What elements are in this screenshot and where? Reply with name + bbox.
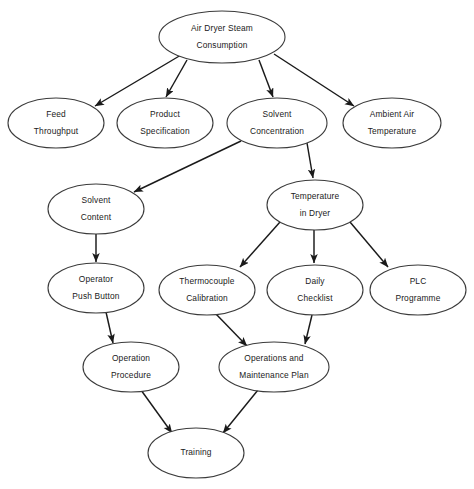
- node-label-ambient-air-temperature-line2: Temperature: [368, 126, 417, 136]
- node-label-feed-throughput-line1: Feed: [46, 109, 66, 119]
- edge-ops-plan-to-training: [223, 390, 258, 433]
- edge-steam-to-product: [166, 60, 187, 97]
- node-label-air-dryer-steam-consumption-line2: Consumption: [197, 40, 248, 50]
- edge-solvent-conc-to-solvent-content: [134, 141, 241, 192]
- node-shape-temperature-in-dryer: [267, 180, 363, 230]
- nodes-layer: Air Dryer SteamConsumptionFeedThroughput…: [8, 11, 466, 478]
- edge-daily-checklist-to-ops-plan: [305, 315, 312, 344]
- node-shape-air-dryer-steam-consumption: [159, 11, 285, 63]
- node-ambient-air-temperature[interactable]: Ambient AirTemperature: [343, 98, 441, 148]
- node-operations-and-maintenance-plan[interactable]: Operations andMaintenance Plan: [219, 342, 329, 392]
- node-label-feed-throughput-line2: Throughput: [34, 126, 79, 136]
- node-shape-product-specification: [117, 98, 213, 148]
- node-air-dryer-steam-consumption[interactable]: Air Dryer SteamConsumption: [159, 11, 285, 63]
- node-label-training-line1: Training: [180, 447, 211, 457]
- flow-diagram-svg: Air Dryer SteamConsumptionFeedThroughput…: [0, 0, 474, 489]
- edge-operation-procedure-to-training: [141, 390, 172, 433]
- node-operator-push-button[interactable]: OperatorPush Button: [48, 263, 144, 313]
- node-label-air-dryer-steam-consumption-line1: Air Dryer Steam: [191, 23, 253, 33]
- node-label-temperature-in-dryer-line1: Temperature: [291, 191, 340, 201]
- edge-steam-to-solvent-conc: [259, 60, 273, 97]
- node-plc-programme[interactable]: PLCProgramme: [370, 265, 466, 315]
- node-label-operations-and-maintenance-plan-line1: Operations and: [244, 353, 304, 363]
- node-label-operator-push-button-line1: Operator: [79, 274, 113, 284]
- node-temperature-in-dryer[interactable]: Temperaturein Dryer: [267, 180, 363, 230]
- node-label-daily-checklist-line2: Checklist: [297, 293, 333, 303]
- edge-temp-dryer-to-thermocouple: [240, 222, 280, 267]
- edge-thermocouple-to-ops-plan: [215, 313, 247, 346]
- node-label-product-specification-line1: Product: [150, 109, 180, 119]
- node-label-thermocouple-calibration-line2: Calibration: [186, 293, 228, 303]
- node-label-ambient-air-temperature-line1: Ambient Air: [370, 109, 415, 119]
- node-label-solvent-content-line1: Solvent: [82, 195, 112, 205]
- node-solvent-concentration[interactable]: SolventConcentration: [227, 98, 327, 148]
- node-shape-operations-and-maintenance-plan: [219, 342, 329, 392]
- node-label-plc-programme-line2: Programme: [395, 293, 440, 303]
- node-shape-solvent-concentration: [227, 98, 327, 148]
- node-label-plc-programme-line1: PLC: [410, 276, 427, 286]
- node-label-product-specification-line2: Specification: [140, 126, 190, 136]
- node-product-specification[interactable]: ProductSpecification: [117, 98, 213, 148]
- node-label-operations-and-maintenance-plan-line2: Maintenance Plan: [239, 370, 309, 380]
- node-shape-operator-push-button: [48, 263, 144, 313]
- node-label-operation-procedure-line1: Operation: [112, 353, 150, 363]
- node-thermocouple-calibration[interactable]: ThermocoupleCalibration: [159, 265, 255, 315]
- node-label-solvent-concentration-line1: Solvent: [263, 109, 293, 119]
- node-solvent-content[interactable]: SolventContent: [48, 184, 144, 234]
- flow-diagram-canvas: Air Dryer SteamConsumptionFeedThroughput…: [0, 0, 474, 489]
- node-shape-ambient-air-temperature: [343, 98, 441, 148]
- node-label-solvent-concentration-line2: Concentration: [250, 126, 304, 136]
- node-shape-solvent-content: [48, 184, 144, 234]
- node-label-temperature-in-dryer-line2: in Dryer: [300, 208, 331, 218]
- node-daily-checklist[interactable]: DailyChecklist: [267, 265, 363, 315]
- node-shape-thermocouple-calibration: [159, 265, 255, 315]
- node-shape-plc-programme: [370, 265, 466, 315]
- node-label-operation-procedure-line2: Procedure: [111, 370, 151, 380]
- node-shape-daily-checklist: [267, 265, 363, 315]
- node-operation-procedure[interactable]: OperationProcedure: [83, 342, 179, 392]
- node-shape-operation-procedure: [83, 342, 179, 392]
- node-feed-throughput[interactable]: FeedThroughput: [8, 98, 104, 148]
- node-shape-feed-throughput: [8, 98, 104, 148]
- node-label-operator-push-button-line2: Push Button: [72, 291, 119, 301]
- edge-temp-dryer-to-plc: [350, 222, 388, 267]
- node-label-solvent-content-line2: Content: [81, 212, 112, 222]
- edge-operator-to-operation-procedure: [106, 312, 113, 343]
- node-label-thermocouple-calibration-line1: Thermocouple: [179, 276, 235, 286]
- node-label-daily-checklist-line1: Daily: [305, 276, 325, 286]
- node-training[interactable]: Training: [148, 428, 244, 478]
- edge-solvent-conc-to-temp-dryer: [307, 143, 313, 178]
